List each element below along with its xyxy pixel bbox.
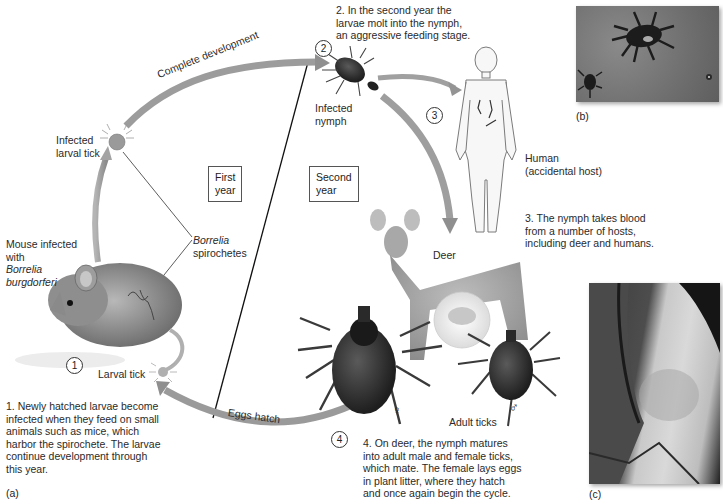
rash-mark [639,369,699,421]
arrow-nymph-to-human [378,76,462,96]
panel-b-label: (b) [576,110,589,122]
deer-label: Deer [433,249,456,262]
step-2-text: 2. In the second year the larvae molt in… [336,4,470,42]
step-1-marker: 1 [66,357,83,374]
first-year-box: First year [208,166,242,202]
panel-c-label: (c) [589,488,601,500]
borrelia-spirochetes-label: Borrelia spirochetes [193,234,247,259]
photo-ticks-closeup [576,6,719,102]
arrow-nymph-to-deer [382,96,458,234]
step-4-text: 4. On deer, the nymph matures into adult… [363,437,522,500]
step-1-text: 1. Newly hatched larvae become infected … [6,400,160,475]
male-symbol: ♂ [509,402,519,415]
human-label: Human (accidental host) [525,152,602,177]
infected-larval-tick-label: Infected larval tick [56,134,100,159]
tick-small-photo [578,70,602,98]
panel-a-label: (a) [6,487,19,499]
infected-nymph-label: Infected nymph [315,102,352,127]
adult-ticks-label: Adult ticks [449,416,497,429]
female-symbol: ♀ [392,405,402,418]
photo-rash-on-arm [589,283,720,484]
second-year-box: Second year [309,166,359,202]
arrow-complete-development [126,54,330,126]
arrow-mouse-to-larva [95,146,112,262]
step-2-marker: 2 [315,40,332,57]
step-3-marker: 3 [426,107,443,124]
tick-large-photo [612,12,674,62]
mouse-label: Mouse infected with Borrelia burgdorferi [6,238,77,288]
step-4-marker: 4 [331,431,348,448]
human-illustration [456,47,516,232]
tick-tiny-photo [706,74,712,80]
infected-nymph-illustration [322,46,380,96]
larval-tick-label: Larval tick [98,368,145,381]
step-3-text: 3. The nymph takes blood from a number o… [525,212,654,250]
